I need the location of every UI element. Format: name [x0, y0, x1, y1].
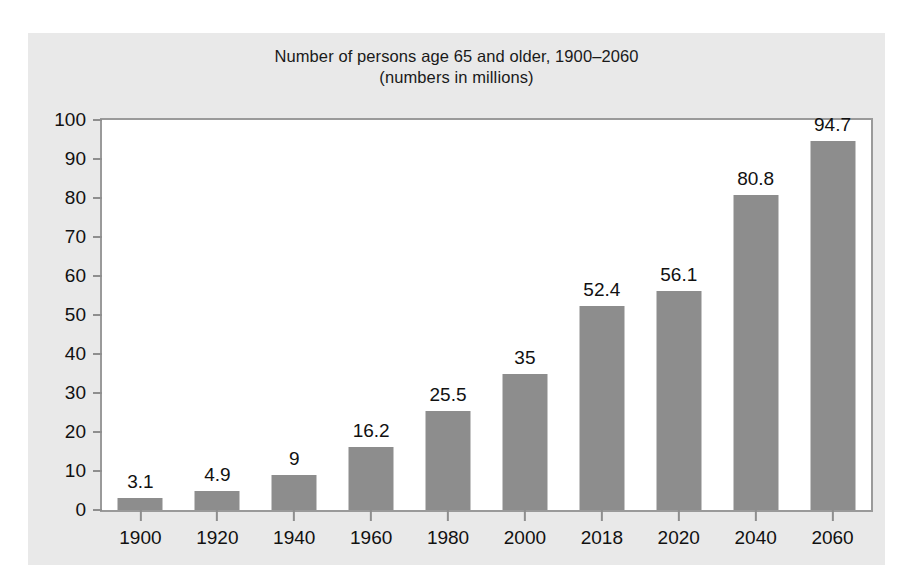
y-axis-tick-label: 80 [65, 187, 93, 209]
y-axis-tick-label: 100 [54, 109, 93, 131]
y-axis-tick: 90 [65, 148, 102, 170]
x-axis-tick-mark [139, 510, 141, 521]
y-axis-tick: 20 [65, 421, 102, 443]
y-axis-tick-mark [93, 236, 102, 238]
bar[interactable]: 25.5 [426, 411, 471, 510]
y-axis-tick-label: 20 [65, 421, 93, 443]
y-axis-tick: 10 [65, 460, 102, 482]
y-axis-tick-label: 40 [65, 343, 93, 365]
x-axis-tick-label: 2000 [504, 527, 546, 549]
x-axis-tick-mark [678, 510, 680, 521]
chart-title-line-1: Number of persons age 65 and older, 1900… [28, 46, 885, 67]
y-axis-tick: 80 [65, 187, 102, 209]
bar-value-label: 80.8 [737, 168, 774, 190]
bar-value-label: 56.1 [660, 264, 697, 286]
x-axis-tick-label: 1920 [196, 527, 238, 549]
x-axis-tick: 1940 [273, 510, 315, 549]
y-axis-tick: 100 [54, 109, 102, 131]
y-axis-tick-mark [93, 431, 102, 433]
x-axis-tick-mark [447, 510, 449, 521]
y-axis-tick: 60 [65, 265, 102, 287]
plot-area: 01020304050607080901003.119004.919209194… [100, 118, 873, 512]
bar[interactable]: 9 [272, 475, 317, 510]
bar[interactable]: 52.4 [579, 306, 624, 510]
x-axis-tick-mark [832, 510, 834, 521]
y-axis-tick: 0 [75, 499, 102, 521]
x-axis-tick-mark [524, 510, 526, 521]
y-axis-tick-label: 50 [65, 304, 93, 326]
x-axis-tick-label: 2020 [658, 527, 700, 549]
x-axis-tick-label: 1960 [350, 527, 392, 549]
y-axis-tick-label: 60 [65, 265, 93, 287]
x-axis-tick-label: 1940 [273, 527, 315, 549]
bar-value-label: 16.2 [353, 420, 390, 442]
x-axis-tick-mark [370, 510, 372, 521]
y-axis-tick: 30 [65, 382, 102, 404]
y-axis-tick-mark [93, 314, 102, 316]
y-axis-tick-label: 10 [65, 460, 93, 482]
chart-figure-card: Number of persons age 65 and older, 1900… [28, 33, 885, 565]
x-axis-tick-mark [601, 510, 603, 521]
x-axis-tick: 2020 [658, 510, 700, 549]
bar-value-label: 52.4 [583, 279, 620, 301]
x-axis-tick: 2060 [811, 510, 853, 549]
y-axis-tick-mark [93, 275, 102, 277]
bar-value-label: 94.7 [814, 114, 851, 136]
y-axis-tick-mark [93, 392, 102, 394]
y-axis-tick-mark [93, 158, 102, 160]
x-axis-tick: 2000 [504, 510, 546, 549]
bar[interactable]: 16.2 [349, 447, 394, 510]
chart-title-line-2: (numbers in millions) [28, 67, 885, 88]
x-axis-tick-label: 1900 [119, 527, 161, 549]
y-axis-tick-mark [93, 509, 102, 511]
x-axis-tick: 1960 [350, 510, 392, 549]
y-axis-tick-label: 0 [75, 499, 93, 521]
x-axis-tick: 1920 [196, 510, 238, 549]
y-axis-tick-label: 70 [65, 226, 93, 248]
y-axis-tick-label: 30 [65, 382, 93, 404]
bar-value-label: 35 [514, 347, 535, 369]
y-axis-tick-mark [93, 197, 102, 199]
x-axis-tick: 2040 [735, 510, 777, 549]
y-axis-tick: 50 [65, 304, 102, 326]
x-axis-tick-mark [293, 510, 295, 521]
y-axis-tick-mark [93, 353, 102, 355]
x-axis-tick-label: 2018 [581, 527, 623, 549]
x-axis-tick-label: 1980 [427, 527, 469, 549]
bar[interactable]: 4.9 [195, 491, 240, 510]
bar[interactable]: 35 [502, 374, 547, 511]
bar[interactable]: 94.7 [810, 141, 855, 510]
bar[interactable]: 56.1 [656, 291, 701, 510]
bar-value-label: 4.9 [204, 464, 230, 486]
plot-inner: 01020304050607080901003.119004.919209194… [102, 120, 871, 510]
x-axis-tick-label: 2040 [735, 527, 777, 549]
x-axis-tick-label: 2060 [811, 527, 853, 549]
bar[interactable]: 3.1 [118, 498, 163, 510]
y-axis-tick-mark [93, 119, 102, 121]
bar[interactable]: 80.8 [733, 195, 778, 510]
chart-title: Number of persons age 65 and older, 1900… [28, 46, 885, 88]
bar-value-label: 3.1 [127, 471, 153, 493]
bar-value-label: 25.5 [430, 384, 467, 406]
y-axis-tick: 70 [65, 226, 102, 248]
y-axis-tick-label: 90 [65, 148, 93, 170]
x-axis-tick-mark [216, 510, 218, 521]
x-axis-tick: 1900 [119, 510, 161, 549]
bar-value-label: 9 [289, 448, 300, 470]
x-axis-tick: 1980 [427, 510, 469, 549]
x-axis-tick: 2018 [581, 510, 623, 549]
y-axis-tick: 40 [65, 343, 102, 365]
x-axis-tick-mark [755, 510, 757, 521]
y-axis-tick-mark [93, 470, 102, 472]
